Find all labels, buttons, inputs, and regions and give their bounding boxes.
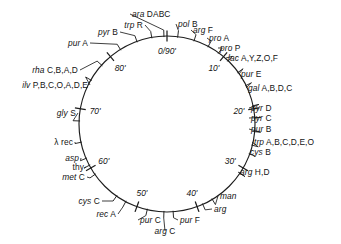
locus-label-gal-ABDC: gal A,B,D,C (248, 84, 292, 92)
gene-symbol: pyr (251, 113, 263, 123)
locus-label-man: man (220, 192, 237, 200)
gene-symbol: pur (241, 69, 253, 79)
leader-line-rec-13 (118, 207, 123, 214)
locus-label-gly-S: gly S (57, 109, 76, 117)
gene-symbol: ara (132, 9, 144, 19)
allele-list: C (79, 172, 85, 182)
allele-list: C,B,A,D (47, 65, 78, 75)
allele-list: C (265, 113, 271, 123)
locus-label-met-C: met C (62, 173, 85, 181)
locus-tick-met-11 (90, 174, 96, 178)
leader-line-pyr-3 (120, 32, 135, 36)
minute-tick-80 (107, 52, 114, 60)
allele-list: A (82, 38, 88, 48)
locus-label-ara-DABC: ara DABC (132, 10, 171, 18)
gene-symbol: thy (73, 162, 84, 172)
minute-label-20: 20' (233, 107, 244, 115)
allele-list: E (256, 69, 262, 79)
locus-label-pur-E: pur E (241, 70, 262, 78)
genetic-map-figure: 0/90'10'20'30'40'50'60'70'80'ara DABCpol… (0, 0, 341, 244)
locus-label-arg-HD: arg H,D (240, 168, 270, 176)
minute-label-80: 80' (115, 64, 126, 72)
allele-list: B (112, 27, 118, 37)
locus-tick-pur-4 (117, 44, 121, 50)
locus-label-cys-B: cys B (250, 148, 271, 156)
gene-symbol: rha (32, 65, 44, 75)
map-canvas (0, 0, 341, 244)
minute-label-60: 60' (98, 156, 109, 164)
locus-label-λ-rec: λ rec (54, 138, 73, 146)
gene-symbol: trp (124, 20, 134, 30)
locus-label-pur-A: pur A (68, 39, 88, 47)
locus-label-rec-A: rec A (96, 210, 116, 218)
gene-symbol: pyr (98, 27, 110, 37)
locus-tick-rec-13 (123, 201, 126, 207)
allele-list: C (169, 226, 175, 236)
minute-label-40: 40' (187, 188, 198, 196)
allele-list: DABC (147, 9, 171, 19)
gene-symbol: cys (79, 196, 92, 206)
gene-symbol: pur (140, 215, 152, 225)
gene-symbol: cys (250, 147, 263, 157)
gene-symbol: gal (248, 83, 259, 93)
gene-symbol: pro (220, 43, 232, 53)
allele-list: S (70, 108, 76, 118)
leader-line-trp-2 (145, 25, 151, 31)
minute-label-70: 70' (90, 107, 101, 115)
minute-label-10: 10' (208, 64, 219, 72)
leader-line-pur-16 (174, 218, 178, 220)
locus-label-thy: thy (73, 163, 84, 171)
allele-list: F (208, 25, 213, 35)
gene-symbol: pur (180, 215, 192, 225)
allele-list: C (94, 196, 100, 206)
allele-list: A (110, 209, 116, 219)
leader-line-pur-4 (90, 43, 117, 44)
allele-list: B (266, 124, 272, 134)
allele-list: D (265, 103, 271, 113)
gene-symbol: λ (54, 137, 58, 147)
leader-line-arg-17 (205, 209, 212, 210)
gene-symbol: ilv (22, 80, 30, 90)
locus-label-pro-P: pro P (220, 44, 241, 52)
gene-symbol: lac (228, 53, 239, 63)
leader-line-asp-9 (80, 158, 81, 161)
allele-list: A,B,D,C (261, 83, 292, 93)
allele-list: P (235, 43, 241, 53)
locus-label-trp-ABCDEO: trp A,B,C,D,E,O (254, 138, 314, 146)
locus-label-pur-F: pur F (180, 216, 200, 224)
gene-symbol: arg (240, 167, 252, 177)
gene-symbol: arg (214, 204, 226, 214)
locus-label-trp-R: trp R (124, 21, 143, 29)
locus-label-cys-C: cys C (79, 197, 100, 205)
leader-line-rha-5 (80, 61, 97, 70)
minute-tick-10 (220, 52, 227, 60)
minute-label-30: 30' (225, 156, 236, 164)
locus-label-pyr-C: pyr C (251, 114, 272, 122)
locus-label-pur-C: pur C (140, 216, 161, 224)
allele-list: R (137, 20, 143, 30)
minute-label-0: 0/90' (158, 47, 176, 55)
gene-symbol: trp (254, 137, 264, 147)
allele-list: A,Y,Z,O,F (241, 53, 278, 63)
locus-tick-rha-5 (97, 61, 102, 66)
leader-line-thy-10 (84, 167, 86, 168)
locus-label-arg: arg (214, 205, 226, 213)
allele-list: H,D (255, 167, 270, 177)
leader-line-met-11 (87, 177, 90, 178)
gene-symbol: man (220, 191, 237, 201)
gene-symbol: met (62, 172, 76, 182)
locus-label-pyr-B: pyr B (98, 28, 118, 36)
locus-label-arg-F: arg F (193, 26, 213, 34)
allele-list: B (265, 147, 271, 157)
allele-list: A (223, 33, 229, 43)
locus-tick-cys-12 (113, 195, 117, 201)
gene-symbol: pur (68, 38, 80, 48)
allele-list: P,B,C,O,A,D,E (33, 80, 88, 90)
locus-label-ilv-PBCOADE: ilv P,B,C,O,A,D,E (22, 81, 88, 89)
allele-list: A,B,C,D,E,O (266, 137, 314, 147)
locus-label-rha-CBAD: rha C,B,A,D (32, 66, 78, 74)
gene-symbol: arg (193, 25, 205, 35)
gene-symbol: pol (178, 19, 189, 29)
locus-label-arg-C: arg C (155, 227, 176, 235)
gene-symbol: pyr (251, 103, 263, 113)
